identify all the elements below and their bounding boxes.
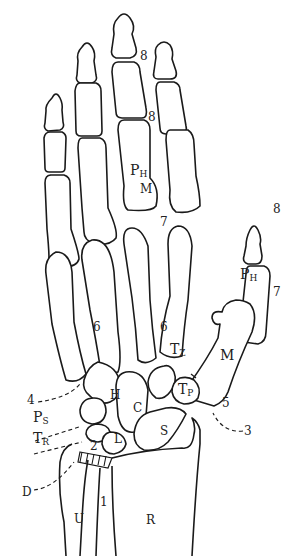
joint-midcarpal-ulnar: 4	[27, 394, 35, 406]
joint-thumb-ip: 8	[273, 203, 281, 215]
label-metacarpal-thumb: M	[220, 348, 234, 362]
joint-thumb-cmc: 5	[222, 397, 230, 409]
joint-dip-middle: 8	[140, 50, 148, 62]
label-hamate: H	[110, 389, 120, 401]
label-trapezium: TP	[178, 382, 193, 398]
label-ulna: U	[74, 513, 84, 525]
joint-radiocarpal: 2	[90, 440, 98, 452]
joint-midcarpal-radial: 3	[244, 425, 252, 437]
label-phalanx-thumb: PH	[240, 267, 257, 283]
joint-cmc-left: 6	[93, 321, 101, 333]
label-scaphoid: S	[160, 425, 168, 437]
label-trapezoid: TZ	[170, 342, 186, 358]
label-lunate: L	[114, 433, 122, 445]
hand-skeleton-diagram: PH PH M M TZ TP H C PS TR L S U R D 8 8 …	[0, 0, 291, 556]
label-capitate: C	[133, 402, 142, 414]
label-disc: D	[22, 486, 32, 498]
joint-thumb-mcp: 7	[273, 286, 281, 298]
label-triquetrum: TR	[33, 431, 49, 447]
label-radius: R	[146, 514, 155, 526]
joint-mcp-middle: 7	[160, 216, 168, 228]
label-pisiform: PS	[33, 410, 49, 426]
joint-pip-middle: 8	[148, 111, 156, 123]
joint-distal-radioulnar: 1	[100, 496, 108, 508]
label-metacarpal-middle: M	[140, 183, 152, 195]
joint-cmc-right: 6	[160, 321, 168, 333]
label-phalanx-middle: PH	[130, 163, 147, 179]
